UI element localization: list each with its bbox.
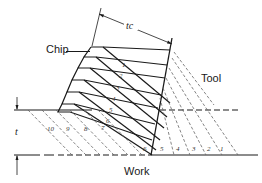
chip-leader-line xyxy=(66,51,90,52)
t-arrow-bottom-icon xyxy=(16,155,19,160)
work-num-2: 2 xyxy=(207,146,211,153)
tc-extension-left xyxy=(92,8,101,46)
tc-arrow-left-icon xyxy=(99,14,104,18)
chip-num-3: 3 xyxy=(116,85,120,92)
work-num-6: 6 xyxy=(143,146,147,153)
work-num-9: 9 xyxy=(66,126,70,133)
chip-num-4: 4 xyxy=(112,96,116,103)
chip-formation-diagram: Chip Tool Work t tc 1 2 3 4 5 6 10 9 8 7… xyxy=(0,0,262,183)
chip-num-2: 2 xyxy=(119,73,123,80)
chip-num-1: 1 xyxy=(122,62,126,69)
chip-num-5: 5 xyxy=(109,107,113,114)
work-num-1: 1 xyxy=(220,146,224,153)
tool-label: Tool xyxy=(201,73,221,84)
work-num-5: 5 xyxy=(160,146,164,153)
work-num-7: 7 xyxy=(101,125,105,132)
uncut-thickness-label: t xyxy=(15,127,18,137)
chip-thickness-label: tc xyxy=(126,21,133,31)
chip-label: Chip xyxy=(46,44,69,55)
work-label: Work xyxy=(124,166,149,177)
work-num-4: 4 xyxy=(176,146,180,153)
work-num-10: 10 xyxy=(47,126,54,133)
work-num-8: 8 xyxy=(84,126,88,133)
chip-num-6: 6 xyxy=(106,118,110,125)
t-arrow-top-icon xyxy=(16,105,19,110)
work-num-3: 3 xyxy=(192,146,196,153)
